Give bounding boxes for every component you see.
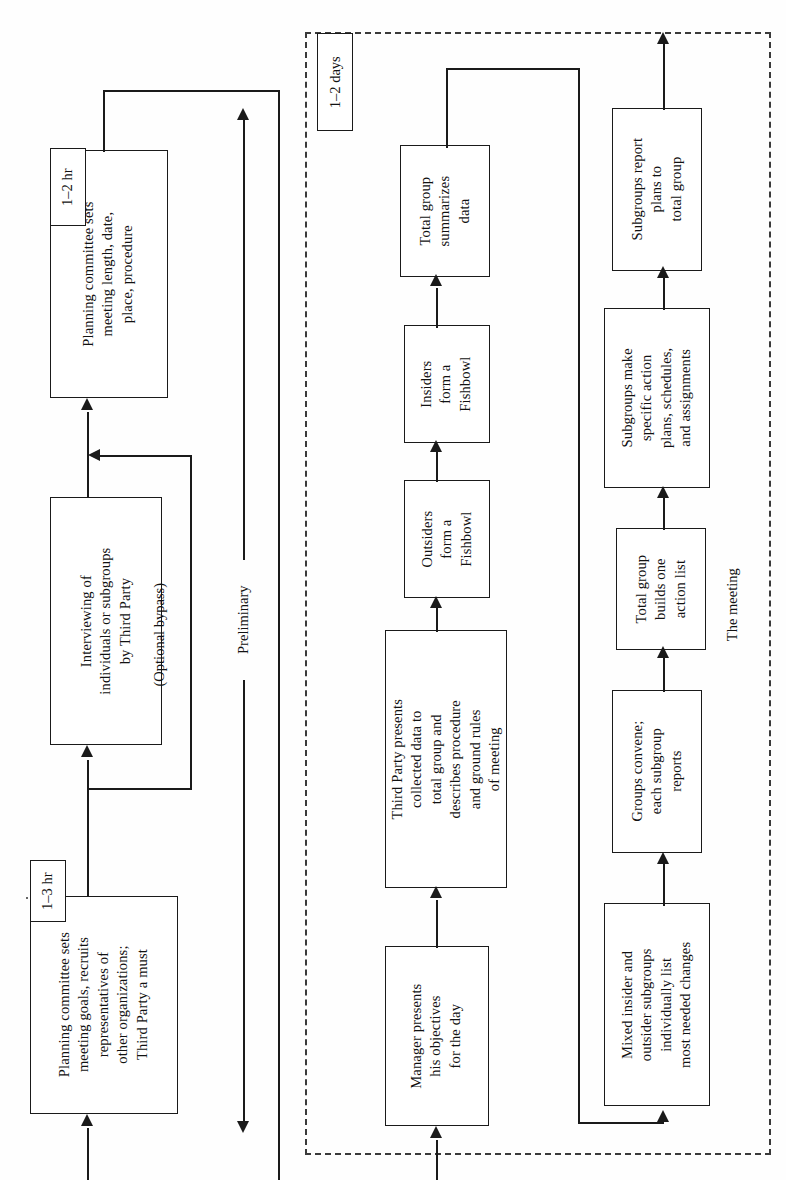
node-interviewing-label: Interviewing of individuals or subgroups… [77,547,135,694]
node-total-group-summarizes[interactable]: Total group summarizes data [400,145,490,277]
connector-manager-to-thirdparty [436,900,438,948]
connector-thirdparty-to-outsiders [436,608,438,632]
node-outsiders-fishbowl[interactable]: Outsiders form a Fishbowl [404,480,490,598]
connector-out-of-meeting [663,44,665,110]
arrowhead-third-party-presents [430,886,442,898]
node-insiders-fishbowl[interactable]: Insiders form a Fishbowl [404,325,490,443]
node-groups-convene[interactable]: Groups convene; each subgroup reports [612,690,702,853]
rowA-to-rowB-horizontal [446,68,580,70]
node-total-group-action-list-label: Total group builds one action list [632,555,690,624]
rowA-to-rowB-right-vertical [578,68,580,1124]
node-third-party-presents-label: Third Party presents collected data to t… [388,699,505,820]
arrowhead-bypass [88,449,100,461]
label-optional-bypass: (Optional bypass) [140,560,180,710]
node-subgroups-action-plans[interactable]: Subgroups make specific action plans, sc… [604,308,710,488]
connector-plans-to-report [663,278,665,310]
label-preliminary-text: Preliminary [233,586,252,654]
tag-1-2-days-label: 1–2 days [328,56,343,108]
feedback-left-vertical [103,90,105,152]
bypass-vertical [190,455,192,790]
node-mixed-subgroups[interactable]: Mixed insider and outsider subgroups ind… [604,903,710,1106]
tag-1-3-hr: 1–3 hr [30,860,66,922]
node-third-party-presents[interactable]: Third Party presents collected data to t… [385,630,507,888]
node-planning-logistics-label: Planning committee sets meeting length, … [80,201,138,346]
arrowhead-mixed-subgroups [657,1110,669,1122]
label-the-meeting: The meeting [710,540,754,670]
node-manager-objectives-label: Manager presents his objectives for the … [408,983,466,1088]
tag-1-3-hr-label: 1–3 hr [41,872,56,909]
node-insiders-fishbowl-label: Insiders form a Fishbowl [418,356,476,411]
node-outsiders-fishbowl-label: Outsiders form a Fishbowl [418,511,476,568]
arrowhead-meeting-exit [657,32,669,44]
flowchart-canvas: Planning committee sets meeting goals, r… [0,0,786,1180]
arrowhead-preliminary-bottom [237,1121,249,1133]
tag-1-2-hr-label: 1–2 hr [61,168,76,205]
bypass-upper-horizontal [100,455,191,457]
tag-1-2-hr: 1–2 hr [50,148,86,226]
arrowhead-total-group-summarizes [430,274,442,286]
node-manager-objectives[interactable]: Manager presents his objectives for the … [385,946,489,1126]
arrowhead-subgroups-report [657,266,669,278]
node-subgroups-action-plans-label: Subgroups make specific action plans, sc… [618,348,696,448]
connector-outsiders-to-insiders [436,452,438,482]
node-planning-goals[interactable]: Planning committee sets meeting goals, r… [30,896,178,1114]
node-total-group-action-list[interactable]: Total group builds one action list [616,528,706,650]
rowA-to-rowB-bottom-horizontal [578,1122,664,1124]
ink-speck [26,897,28,899]
connector-insiders-to-summary [436,288,438,328]
rowA-to-rowB-left-vertical [446,68,448,148]
arrowhead-manager-objectives [430,1126,442,1138]
feedback-top-horizontal [103,90,280,92]
node-subgroups-report[interactable]: Subgroups report plans to total group [612,108,702,271]
arrowhead-interviewing [81,745,93,757]
label-the-meeting-text: The meeting [722,569,741,642]
connector-mixed-to-convene [663,864,665,906]
connector-in-planning-goals [87,1128,89,1180]
connector-convene-to-actionlist [663,658,665,692]
arrowhead-total-group-action-list [657,646,669,658]
arrowhead-preliminary-top [237,108,249,120]
node-planning-goals-label: Planning committee sets meeting goals, r… [55,932,152,1077]
bypass-lower-horizontal [87,788,191,790]
arrowhead-groups-convene [657,852,669,864]
node-groups-convene-label: Groups convene; each subgroup reports [628,721,686,822]
node-mixed-subgroups-label: Mixed insider and outsider subgroups ind… [618,941,696,1067]
arrowhead-outsiders-fishbowl [430,596,442,608]
connector-into-meeting [436,1140,438,1180]
tag-1-2-days: 1–2 days [317,33,353,131]
label-optional-bypass-text: (Optional bypass) [150,583,169,687]
connector-actionlist-to-plans [663,498,665,530]
arrowhead-planning-goals [81,1114,93,1126]
connector-goals-to-interviewing [87,760,89,896]
label-preliminary: Preliminary [222,560,264,680]
node-total-group-summarizes-label: Total group summarizes data [416,176,474,247]
feedback-right-vertical [278,90,280,1180]
arrowhead-insiders-fishbowl [430,440,442,452]
node-subgroups-report-label: Subgroups report plans to total group [628,138,686,241]
arrowhead-subgroups-action-plans [657,486,669,498]
arrowhead-planning-logistics [81,398,93,410]
